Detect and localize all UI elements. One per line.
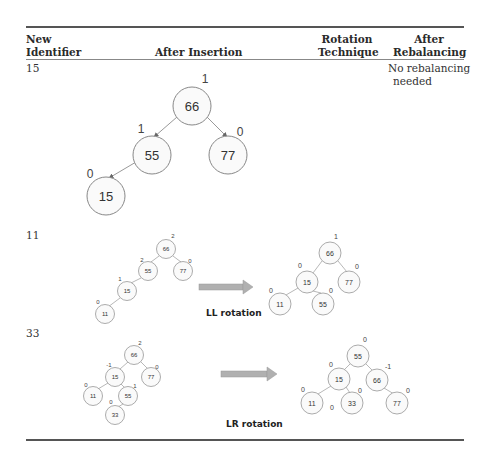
svg-text:66: 66 bbox=[163, 246, 170, 252]
svg-text:0: 0 bbox=[329, 287, 333, 294]
svg-text:77: 77 bbox=[148, 374, 155, 380]
svg-text:0: 0 bbox=[358, 387, 362, 394]
svg-text:33: 33 bbox=[348, 400, 356, 407]
svg-text:0: 0 bbox=[96, 299, 100, 305]
lr-rotation-arrow bbox=[221, 367, 277, 381]
svg-text:55: 55 bbox=[319, 301, 327, 308]
svg-text:1: 1 bbox=[202, 72, 209, 86]
svg-text:0: 0 bbox=[355, 263, 359, 270]
svg-text:55: 55 bbox=[125, 393, 132, 399]
svg-text:0: 0 bbox=[406, 387, 410, 394]
svg-text:0: 0 bbox=[109, 399, 113, 405]
svg-text:55: 55 bbox=[354, 353, 362, 360]
tree-row11-after-rebalancing: 66 15 77 11 55 1 0 0 0 0 bbox=[269, 233, 360, 315]
svg-text:0: 0 bbox=[298, 262, 302, 269]
svg-text:-1: -1 bbox=[106, 362, 112, 368]
svg-text:77: 77 bbox=[393, 400, 401, 407]
svg-text:15: 15 bbox=[99, 189, 113, 204]
svg-text:11: 11 bbox=[90, 393, 97, 399]
svg-text:11: 11 bbox=[102, 311, 109, 317]
svg-text:11: 11 bbox=[276, 301, 283, 308]
svg-text:1: 1 bbox=[133, 383, 137, 389]
svg-text:55: 55 bbox=[145, 148, 159, 163]
svg-text:2: 2 bbox=[138, 340, 142, 346]
svg-text:0: 0 bbox=[87, 167, 94, 181]
svg-text:77: 77 bbox=[180, 268, 187, 274]
svg-text:15: 15 bbox=[335, 376, 343, 383]
svg-text:0: 0 bbox=[188, 258, 192, 264]
svg-text:77: 77 bbox=[221, 148, 235, 163]
svg-text:66: 66 bbox=[185, 99, 199, 114]
svg-text:0: 0 bbox=[329, 361, 333, 368]
svg-text:1: 1 bbox=[118, 276, 122, 282]
svg-text:15: 15 bbox=[124, 288, 131, 294]
svg-text:11: 11 bbox=[308, 400, 315, 407]
svg-text:0: 0 bbox=[237, 125, 244, 139]
svg-text:0: 0 bbox=[155, 364, 159, 370]
svg-text:33: 33 bbox=[112, 412, 119, 418]
svg-text:0: 0 bbox=[269, 287, 273, 294]
ll-rotation-arrow bbox=[199, 280, 253, 294]
svg-text:2: 2 bbox=[140, 257, 144, 263]
svg-text:66: 66 bbox=[326, 250, 334, 257]
svg-text:77: 77 bbox=[345, 279, 353, 286]
svg-text:1: 1 bbox=[138, 122, 145, 136]
svg-text:0: 0 bbox=[330, 404, 334, 411]
svg-text:66: 66 bbox=[131, 352, 138, 358]
avl-tree-diagrams: 66 55 77 15 1 1 0 0 66 55 77 15 11 2 2 0… bbox=[0, 0, 487, 455]
tree-row11-after-insertion: 66 55 77 15 11 2 2 0 1 0 bbox=[96, 233, 193, 324]
svg-text:0: 0 bbox=[301, 386, 305, 393]
tree-row33-after-insertion: 66 15 77 11 55 33 2 -1 0 0 1 0 bbox=[84, 340, 161, 425]
svg-text:1: 1 bbox=[334, 233, 338, 240]
svg-text:66: 66 bbox=[373, 377, 381, 384]
svg-text:0: 0 bbox=[363, 336, 367, 343]
svg-text:55: 55 bbox=[145, 268, 152, 274]
svg-text:15: 15 bbox=[112, 374, 119, 380]
svg-text:2: 2 bbox=[171, 233, 175, 239]
svg-text:0: 0 bbox=[84, 382, 88, 388]
tree-row33-after-rebalancing: 55 15 66 11 33 77 0 0 -1 0 0 0 0 bbox=[301, 336, 410, 414]
svg-text:-1: -1 bbox=[385, 363, 391, 370]
tree-row15-after-insertion: 66 55 77 15 1 1 0 0 bbox=[87, 72, 247, 215]
svg-text:15: 15 bbox=[303, 279, 311, 286]
